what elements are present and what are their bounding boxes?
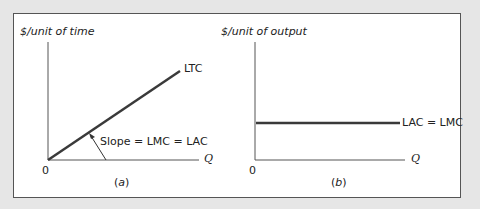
panel-b-caption: (b) bbox=[331, 176, 347, 189]
panel-b-origin: 0 bbox=[249, 164, 256, 177]
panel-a-origin: 0 bbox=[42, 164, 49, 177]
panel-b-x-axis-label: Q bbox=[411, 152, 420, 165]
panel-a-x-axis-label: Q bbox=[204, 152, 213, 165]
panel-a-caption: (a) bbox=[114, 176, 129, 189]
panel-b-y-axis-label: $/unit of output bbox=[221, 25, 307, 38]
slope-annotation: Slope = LMC = LAC bbox=[100, 135, 208, 148]
panel-a-y-axis-label: $/unit of time bbox=[20, 25, 94, 38]
ltc-label: LTC bbox=[184, 62, 202, 75]
lac-lmc-label: LAC = LMC bbox=[402, 116, 463, 129]
panel-b-axes bbox=[255, 42, 405, 160]
